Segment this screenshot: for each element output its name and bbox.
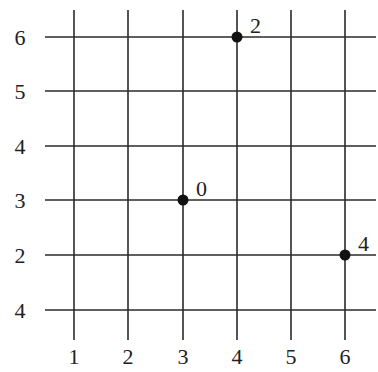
point-label: 2 <box>250 13 261 38</box>
data-point <box>340 250 351 261</box>
x-tick-label: 5 <box>286 344 297 369</box>
grid-chart: 123456 654324 204 <box>0 0 378 372</box>
data-points: 204 <box>178 13 370 261</box>
y-tick-label: 4 <box>15 298 26 323</box>
x-tick-label: 2 <box>123 344 134 369</box>
grid-lines <box>45 10 376 340</box>
y-tick-label: 4 <box>15 134 26 159</box>
y-tick-label: 2 <box>15 243 26 268</box>
point-label: 0 <box>196 176 207 201</box>
y-axis-tick-labels: 654324 <box>15 25 26 323</box>
data-point <box>178 195 189 206</box>
x-tick-label: 6 <box>340 344 351 369</box>
x-axis-tick-labels: 123456 <box>69 344 351 369</box>
data-point <box>232 32 243 43</box>
y-tick-label: 5 <box>15 79 26 104</box>
x-tick-label: 4 <box>232 344 243 369</box>
y-tick-label: 3 <box>15 188 26 213</box>
x-tick-label: 3 <box>178 344 189 369</box>
point-label: 4 <box>358 231 369 256</box>
y-tick-label: 6 <box>15 25 26 50</box>
x-tick-label: 1 <box>69 344 80 369</box>
